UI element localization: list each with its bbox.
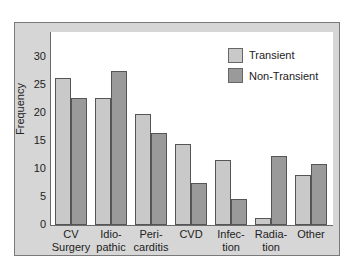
legend-label-transient: Transient (249, 49, 294, 62)
bar-transient (175, 144, 191, 225)
bar-non-transient (311, 164, 327, 225)
x-tick-label: Other (287, 228, 335, 254)
y-tick-label: 20 (22, 106, 46, 118)
y-tick-label: 10 (22, 162, 46, 174)
bar-transient (135, 114, 151, 225)
legend-label-non-transient: Non-Transient (249, 70, 318, 83)
bar-transient (215, 160, 231, 225)
bar-non-transient (231, 199, 247, 225)
y-tick-label: 25 (22, 78, 46, 90)
bar-non-transient (111, 71, 127, 225)
bar-non-transient (71, 98, 87, 225)
bar-transient (55, 78, 71, 225)
bar-non-transient (271, 156, 287, 225)
y-tick-label: 0 (22, 218, 46, 230)
y-tick-label: 30 (22, 50, 46, 62)
bar-transient (95, 98, 111, 225)
bar-non-transient (151, 133, 167, 225)
bar-transient (255, 218, 271, 225)
bar-transient (295, 175, 311, 225)
legend-swatch-transient (228, 48, 243, 63)
bar-non-transient (191, 183, 207, 225)
legend-swatch-non-transient (228, 68, 243, 83)
y-tick-label: 15 (22, 134, 46, 146)
y-tick-label: 5 (22, 190, 46, 202)
